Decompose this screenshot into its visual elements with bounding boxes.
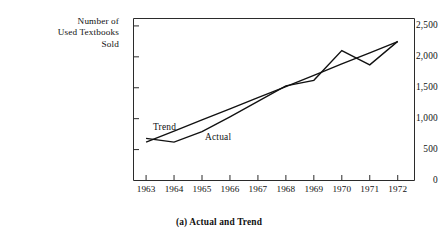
y-tick-label-500: 500 xyxy=(316,145,438,154)
figure-actual-and-trend: Number of Used Textbooks Sold 05001,0001… xyxy=(0,0,438,242)
series-label-trend: Trend xyxy=(153,123,176,132)
figure-caption: (a) Actual and Trend xyxy=(0,218,438,227)
x-tick-label-1972: 1972 xyxy=(381,185,415,194)
y-tick-label-2500: 2,500 xyxy=(316,21,438,30)
axis-ticks xyxy=(134,26,398,181)
series-label-actual: Actual xyxy=(205,133,231,142)
y-tick-label-1500: 1,500 xyxy=(316,83,438,92)
y-tick-label-2000: 2,000 xyxy=(316,52,438,61)
axes-frame xyxy=(134,19,415,181)
y-tick-label-1000: 1,000 xyxy=(316,114,438,123)
